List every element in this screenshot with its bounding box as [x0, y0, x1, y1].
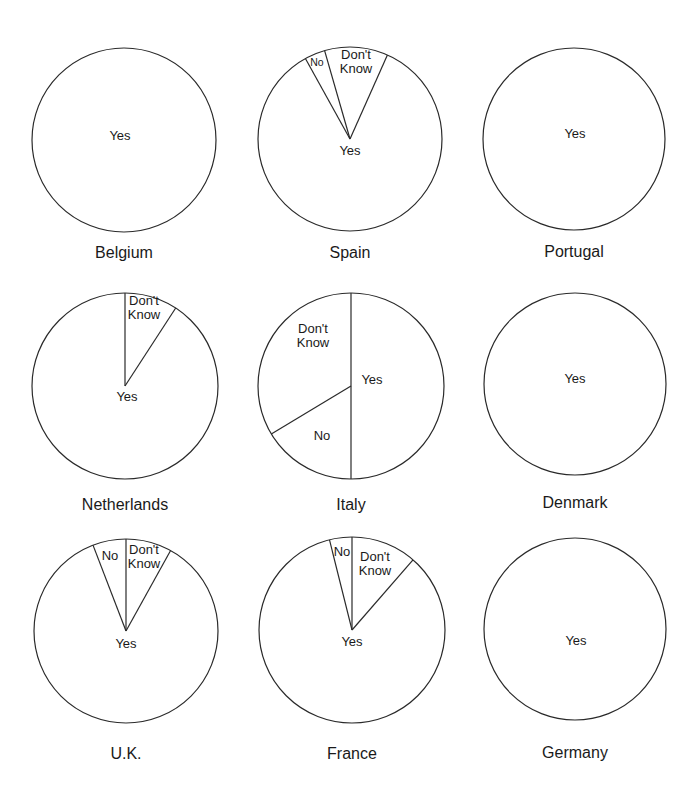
- slice-label-don-t-know: Don'tKnow: [297, 321, 330, 350]
- country-label: Spain: [330, 244, 371, 261]
- pie-chart-denmark: YesDenmark: [484, 293, 666, 511]
- pie-chart-spain: YesNoDon'tKnowSpain: [258, 47, 442, 261]
- pie-chart-italy: YesNoDon'tKnowItaly: [258, 293, 444, 513]
- pie-chart-netherlands: YesDon'tKnowNetherlands: [32, 293, 218, 513]
- slice-label-yes: Yes: [339, 143, 361, 158]
- slice-label-no: No: [314, 428, 331, 443]
- slice-label-yes: Yes: [564, 371, 586, 386]
- slice-label-no: No: [310, 56, 324, 68]
- slice-label-yes: Yes: [116, 389, 138, 404]
- pie-chart-france: YesNoDon'tKnowFrance: [259, 537, 445, 762]
- country-label: Denmark: [543, 494, 609, 511]
- country-label: Netherlands: [82, 496, 168, 513]
- slice-label-don-t-know: Don'tKnow: [128, 293, 161, 322]
- pie-outline: [484, 538, 666, 720]
- slice-label-yes: Yes: [109, 128, 131, 143]
- country-label: U.K.: [110, 745, 141, 762]
- pie-chart-germany: YesGermany: [484, 538, 666, 761]
- pie-chart-grid: YesBelgiumYesNoDon'tKnowSpainYesPortugal…: [0, 0, 697, 800]
- pie-chart-portugal: YesPortugal: [483, 48, 665, 260]
- slice-label-don-t-know: Don'tKnow: [340, 47, 373, 76]
- slice-label-don-t-know: Don'tKnow: [128, 542, 161, 571]
- pie-chart-u-k: YesNoDon'tKnowU.K.: [34, 539, 218, 762]
- slice-label-no: No: [334, 544, 351, 559]
- slice-label-yes: Yes: [115, 636, 137, 651]
- slice-label-yes: Yes: [565, 633, 587, 648]
- country-label: Italy: [336, 496, 365, 513]
- slice-label-yes: Yes: [341, 634, 363, 649]
- slice-label-no: No: [102, 548, 119, 563]
- country-label: Belgium: [95, 244, 153, 261]
- pie-chart-belgium: YesBelgium: [32, 48, 216, 261]
- slice-label-yes: Yes: [564, 126, 586, 141]
- slice-label-don-t-know: Don'tKnow: [359, 549, 392, 578]
- slice-label-yes: Yes: [361, 372, 383, 387]
- country-label: Portugal: [544, 243, 604, 260]
- country-label: France: [327, 745, 377, 762]
- country-label: Germany: [542, 744, 608, 761]
